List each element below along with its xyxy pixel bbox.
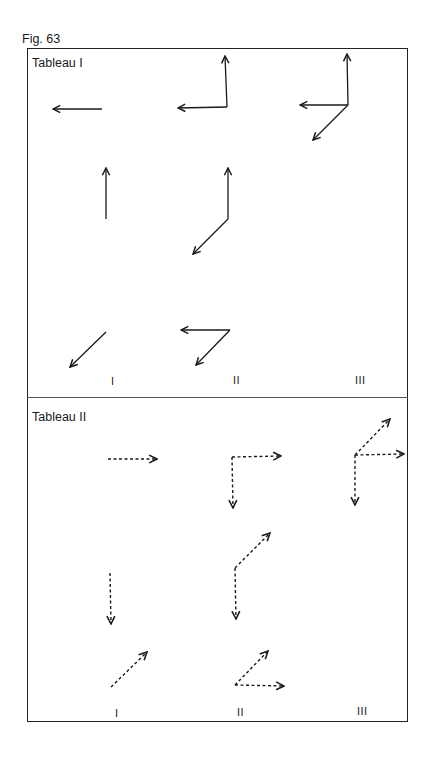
tableau-1-arrows (53, 54, 348, 367)
arrow-left-icon (178, 107, 227, 108)
arrow-down-icon (110, 573, 111, 624)
arrow-down-left-icon (313, 105, 348, 140)
arrow-up-right-icon (111, 652, 147, 687)
arrow-down-icon (235, 568, 236, 619)
arrow-down-icon (232, 457, 233, 508)
tableau-2-arrows (108, 419, 404, 687)
arrow-up-right-icon (235, 533, 270, 568)
arrow-right-icon (355, 454, 404, 455)
arrow-up-icon (347, 54, 348, 105)
arrow-down-left-icon (196, 330, 230, 365)
arrow-right-icon (235, 685, 284, 686)
arrow-up-right-icon (235, 651, 268, 685)
arrow-right-icon (232, 456, 281, 457)
arrow-up-icon (225, 56, 227, 107)
arrow-up-right-icon (355, 419, 390, 455)
arrow-down-left-icon (193, 219, 228, 254)
vector-diagram (0, 0, 432, 759)
arrow-down-left-icon (70, 332, 106, 367)
